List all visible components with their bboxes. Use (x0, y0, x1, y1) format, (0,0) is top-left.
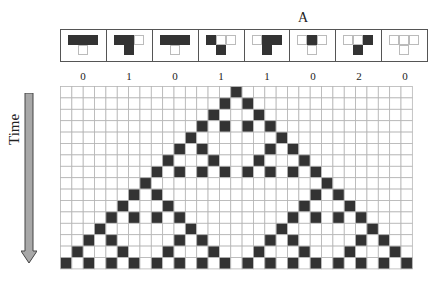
cell-off (208, 212, 219, 223)
cell-off (322, 166, 333, 177)
cell-off (83, 121, 94, 132)
cell-off (129, 235, 140, 246)
cell-off (83, 201, 94, 212)
cell-off (117, 258, 128, 269)
cell-off (151, 223, 162, 234)
cell-on (83, 235, 94, 246)
cell-off (219, 87, 230, 98)
cell-off (367, 246, 378, 257)
cell-off (322, 98, 333, 109)
cell-off (356, 166, 367, 177)
cell-off (378, 201, 389, 212)
rule-value-label: 0 (73, 70, 93, 82)
cell-off (265, 246, 276, 257)
cell-on (208, 246, 219, 257)
cell-on (344, 201, 355, 212)
cell-off (95, 121, 106, 132)
cell-off (378, 98, 389, 109)
cell-off (61, 212, 72, 223)
time-axis-label: Time (6, 114, 23, 145)
cell-off (106, 109, 117, 120)
cell-on (106, 235, 117, 246)
cell-off (310, 178, 321, 189)
cell-off (288, 178, 299, 189)
cell-off (151, 235, 162, 246)
cell-off (333, 235, 344, 246)
cell-off (367, 155, 378, 166)
rule-output-cell (399, 45, 409, 55)
cell-off (367, 87, 378, 98)
rule-value-label: 0 (165, 70, 185, 82)
cell-off (378, 246, 389, 257)
rule-box (107, 30, 153, 61)
cell-off (390, 178, 401, 189)
cell-off (174, 132, 185, 143)
cell-off (72, 189, 83, 200)
cell-off (83, 109, 94, 120)
rule-neighbor-cell (226, 35, 236, 45)
cell-on (265, 121, 276, 132)
cell-off (185, 201, 196, 212)
cell-on (401, 258, 412, 269)
cell-off (288, 223, 299, 234)
cell-off (140, 235, 151, 246)
cell-off (310, 98, 321, 109)
cell-off (265, 155, 276, 166)
cell-off (163, 166, 174, 177)
cell-off (310, 132, 321, 143)
cell-off (242, 235, 253, 246)
cell-off (174, 178, 185, 189)
cell-on (288, 144, 299, 155)
cell-on (117, 246, 128, 257)
cell-on (163, 201, 174, 212)
cell-on (310, 212, 321, 223)
cell-off (310, 223, 321, 234)
cell-off (197, 132, 208, 143)
cell-off (276, 166, 287, 177)
cell-off (378, 212, 389, 223)
cell-off (322, 121, 333, 132)
cell-off (356, 132, 367, 143)
cell-off (333, 178, 344, 189)
cell-off (219, 109, 230, 120)
cell-off (129, 178, 140, 189)
cell-off (401, 235, 412, 246)
cell-on (356, 258, 367, 269)
cell-off (95, 132, 106, 143)
cell-off (117, 178, 128, 189)
cell-off (83, 132, 94, 143)
cell-off (95, 155, 106, 166)
cell-off (197, 246, 208, 257)
cell-off (129, 155, 140, 166)
time-arrow-icon (21, 93, 37, 269)
cell-off (333, 223, 344, 234)
cell-off (151, 109, 162, 120)
cell-off (219, 155, 230, 166)
cell-off (174, 246, 185, 257)
cell-on (151, 258, 162, 269)
cell-off (185, 246, 196, 257)
rule-neighbor-cell (206, 35, 216, 45)
cell-off (95, 201, 106, 212)
cell-off (174, 201, 185, 212)
cell-off (333, 132, 344, 143)
cell-on (242, 121, 253, 132)
cell-off (367, 166, 378, 177)
cell-off (356, 246, 367, 257)
cell-off (95, 98, 106, 109)
cell-off (129, 109, 140, 120)
cell-off (117, 121, 128, 132)
cell-off (231, 109, 242, 120)
cell-off (151, 98, 162, 109)
cell-on (242, 98, 253, 109)
cell-off (378, 178, 389, 189)
cell-on (253, 155, 264, 166)
cell-off (276, 189, 287, 200)
cell-off (197, 109, 208, 120)
cell-off (344, 109, 355, 120)
cell-off (61, 87, 72, 98)
cell-off (163, 235, 174, 246)
cell-off (242, 132, 253, 143)
cell-on (310, 258, 321, 269)
cell-off (310, 87, 321, 98)
